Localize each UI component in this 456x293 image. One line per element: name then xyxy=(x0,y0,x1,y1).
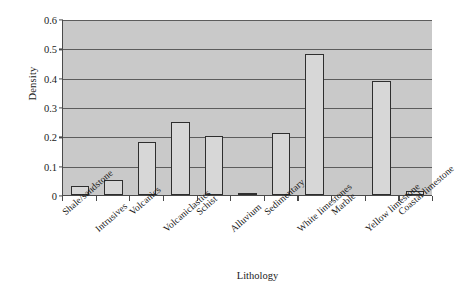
x-axis-tick-label: Alluvium xyxy=(228,201,264,234)
x-axis-tick-label: Sedimentary xyxy=(261,176,306,217)
x-axis-tick-label: Intrusives xyxy=(93,200,130,234)
x-axis-tick-label: Shale/sandstone xyxy=(60,167,115,217)
x-axis-title: Lithology xyxy=(0,270,449,281)
x-axis-tick-label: Volcanics xyxy=(127,184,163,217)
